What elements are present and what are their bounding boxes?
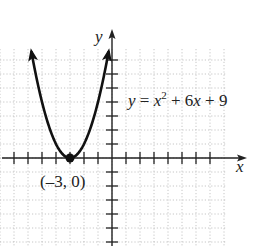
equation-eq: = [136, 91, 154, 110]
labels: y x y = x2 + 6x + 9 (–3, 0) [40, 27, 244, 191]
vertex-point [66, 154, 75, 163]
equation-label: y = x2 + 6x + 9 [126, 89, 227, 110]
x-axis-label: x [235, 157, 244, 176]
y-axis-label: y [93, 27, 103, 46]
equation-constant: + 9 [201, 91, 228, 110]
parabola-graph: y x y = x2 + 6x + 9 (–3, 0) [0, 0, 257, 246]
grid [0, 49, 226, 246]
equation-linear: + 6 [167, 91, 194, 110]
axes [2, 29, 247, 246]
equation-lhs: y [126, 91, 136, 110]
vertex-label: (–3, 0) [40, 172, 85, 191]
